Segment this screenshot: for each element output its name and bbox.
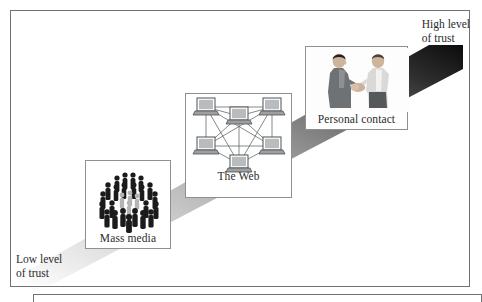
trust-label-high-line1: High level (422, 17, 470, 31)
handshake-photo (306, 48, 409, 112)
trust-label-low-line1: Low level (16, 252, 62, 266)
trust-label-low-line2: of trust (16, 266, 62, 280)
node-caption-mass-media: Mass media (100, 232, 156, 248)
crowd-of-people-icon (86, 163, 172, 233)
laptop-mesh-network-icon (186, 94, 293, 176)
trust-label-low: Low level of trust (16, 252, 62, 280)
figure-secondary-frame (33, 294, 482, 302)
node-box-personal-contact[interactable]: Personal contact (305, 46, 408, 130)
node-caption-personal-contact: Personal contact (318, 113, 395, 129)
node-box-mass-media[interactable]: Mass media (85, 160, 171, 249)
clasped-hands (351, 83, 365, 92)
figure-canvas: Mass media (0, 0, 482, 302)
trust-label-high-line2: of trust (422, 31, 470, 45)
trust-label-high: High level of trust (422, 17, 470, 45)
node-box-the-web[interactable]: The Web (185, 93, 292, 198)
